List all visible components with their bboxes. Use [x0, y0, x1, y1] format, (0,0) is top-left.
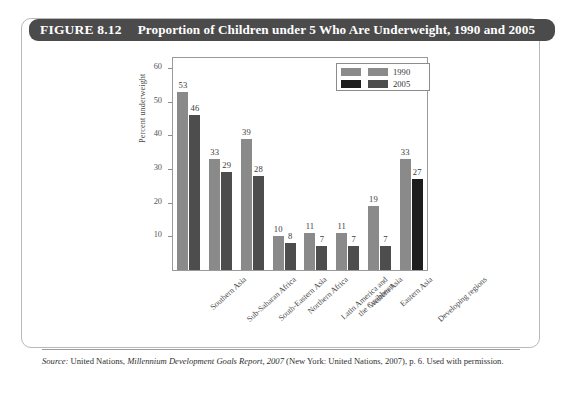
chart-area: Percent underweight 102030405060 5346332…: [0, 41, 519, 301]
y-axis-title: Percent underweight: [138, 74, 147, 143]
legend-swatch-ghost-2005: [341, 80, 361, 88]
bar-value-label: 39: [242, 127, 251, 137]
y-tick-label: 20: [154, 197, 162, 206]
y-tick-mark: [168, 68, 172, 69]
bar-value-label: 11: [306, 221, 314, 231]
legend-item-2005: 2005: [341, 79, 425, 89]
source-prefix: Source:: [42, 356, 68, 366]
bar-1990: 19: [368, 206, 379, 270]
source-text-2: (New York: United Nations, 2007), p. 6. …: [284, 356, 504, 366]
y-tick-label: 30: [154, 163, 162, 172]
bar-value-label: 46: [191, 103, 200, 113]
source-italic-title: Millennium Development Goals Report, 200…: [127, 356, 284, 366]
bar-2005: 46: [189, 115, 200, 270]
y-tick-mark: [168, 135, 172, 136]
bar-value-label: 27: [413, 167, 422, 177]
bar-value-label: 7: [320, 234, 324, 244]
bar-2005: 29: [221, 172, 232, 270]
y-tick-label: 40: [154, 129, 162, 138]
legend-swatch-1990: [368, 68, 388, 76]
y-tick-mark: [168, 236, 172, 237]
bar-2005: 7: [316, 246, 327, 270]
figure-title: Proportion of Children under 5 Who Are U…: [138, 22, 535, 38]
y-tick-label: 10: [154, 230, 162, 239]
bar-1990: 10: [273, 236, 284, 270]
bar-1990: 33: [209, 159, 220, 270]
bar-value-label: 33: [210, 147, 219, 157]
bar-value-label: 28: [254, 164, 263, 174]
bar-2005: 7: [348, 246, 359, 270]
legend-label-2005: 2005: [393, 79, 410, 89]
bar-value-label: 19: [369, 194, 378, 204]
bar-group: 117: [304, 58, 327, 270]
bar-value-label: 7: [383, 234, 387, 244]
bar-2005: 8: [285, 243, 296, 270]
bar-group: 3329: [209, 58, 232, 270]
bar-1990: 11: [304, 233, 315, 270]
bar-value-label: 53: [179, 80, 188, 90]
y-tick-mark: [168, 102, 172, 103]
legend-item-1990: 1990: [341, 67, 425, 77]
y-tick-mark: [168, 169, 172, 170]
legend-label-1990: 1990: [393, 67, 410, 77]
y-tick-label: 60: [154, 62, 162, 71]
bar-group: 5346: [177, 58, 200, 270]
bar-1990: 39: [241, 139, 252, 270]
bar-value-label: 29: [222, 160, 231, 170]
y-tick-label: 50: [154, 96, 162, 105]
bar-1990: 11: [336, 233, 347, 270]
bar-group: 108: [273, 58, 296, 270]
bar-value-label: 33: [401, 147, 410, 157]
figure-number: FIGURE 8.12: [40, 22, 122, 38]
bar-2005: 27: [412, 179, 423, 270]
bar-group: 3928: [241, 58, 264, 270]
figure-title-bar: FIGURE 8.12 Proportion of Children under…: [29, 19, 555, 41]
legend-swatch-ghost-1990: [341, 68, 361, 76]
bar-value-label: 8: [288, 231, 292, 241]
bar-1990: 33: [400, 159, 411, 270]
bar-2005: 7: [380, 246, 391, 270]
source-note: Source: United Nations, Millennium Devel…: [42, 355, 524, 368]
y-tick-mark: [168, 203, 172, 204]
bar-2005: 28: [253, 176, 264, 270]
source-divider: [42, 349, 520, 350]
bar-value-label: 11: [337, 221, 345, 231]
bar-1990: 53: [177, 92, 188, 270]
legend-swatch-2005: [368, 80, 388, 88]
chart-legend: 1990 2005: [336, 63, 430, 91]
bar-value-label: 7: [351, 234, 355, 244]
source-text-1: United Nations,: [68, 356, 127, 366]
bar-value-label: 10: [274, 224, 283, 234]
